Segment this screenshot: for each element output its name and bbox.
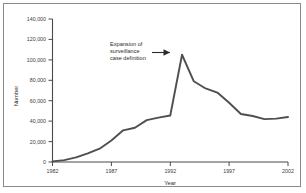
x-tick-label-2002: 2002: [282, 168, 294, 174]
annotation-line-1: Expansion of: [110, 41, 143, 47]
y-tick-label-80000: 80,000: [30, 77, 46, 83]
chart-canvas: 140,000 120,000 100,000 80,000 60,000 40…: [0, 0, 306, 193]
annotation-line-2: surveillance: [110, 48, 140, 54]
annotation-line-3: case definition: [110, 55, 146, 61]
y-axis-title: Number: [13, 86, 19, 107]
x-tick-label-1987: 1987: [106, 168, 118, 174]
y-tick-label-120000: 120,000: [27, 36, 46, 42]
annotation-group: Expansion of surveillance case definitio…: [110, 41, 170, 61]
y-tick-label-140000: 140,000: [27, 16, 46, 22]
data-series-line: [53, 55, 289, 162]
x-axis-title: Year: [164, 180, 176, 186]
right-arrow-icon: [164, 49, 171, 55]
x-tick-marks: [53, 162, 289, 166]
y-tick-label-100000: 100,000: [27, 57, 46, 63]
x-tick-label-1982: 1982: [47, 168, 59, 174]
y-tick-label-0: 0: [43, 159, 46, 165]
y-tick-label-20000: 20,000: [30, 139, 46, 145]
x-tick-label-1997: 1997: [223, 168, 235, 174]
x-tick-label-1992: 1992: [164, 168, 176, 174]
y-tick-marks: [49, 19, 53, 162]
figure-container: 140,000 120,000 100,000 80,000 60,000 40…: [0, 0, 306, 193]
y-tick-label-60000: 60,000: [30, 98, 46, 104]
y-tick-label-40000: 40,000: [30, 118, 46, 124]
